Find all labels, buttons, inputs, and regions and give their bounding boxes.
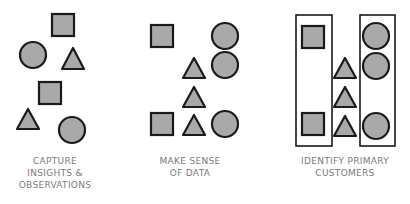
caption-line: MAKE SENSE <box>140 155 240 167</box>
square-shape <box>39 82 61 104</box>
circle-shape <box>212 52 238 78</box>
triangle-shape <box>334 87 356 107</box>
caption-identify-primary-customers: IDENTIFY PRIMARY CUSTOMERS <box>280 155 410 179</box>
circle-shape <box>212 111 238 137</box>
square-shape <box>302 26 324 48</box>
triangle-shape <box>334 116 356 136</box>
circle-shape <box>212 23 238 49</box>
triangle-shape <box>17 109 39 129</box>
caption-line: CUSTOMERS <box>280 167 410 179</box>
circle-shape <box>363 113 389 139</box>
caption-line: OF DATA <box>140 167 240 179</box>
square-shape <box>151 25 173 47</box>
triangle-shape <box>183 115 205 135</box>
caption-line: INSIGHTS & <box>5 167 105 179</box>
caption-line: IDENTIFY PRIMARY <box>280 155 410 167</box>
square-shape <box>52 14 74 36</box>
square-shape <box>151 113 173 135</box>
panel-identify-primary-customers <box>296 15 395 146</box>
caption-capture-insights: CAPTURE INSIGHTS & OBSERVATIONS <box>5 155 105 191</box>
caption-line: CAPTURE <box>5 155 105 167</box>
triangle-shape <box>334 58 356 78</box>
triangle-shape <box>62 48 84 69</box>
caption-line: OBSERVATIONS <box>5 179 105 191</box>
circle-shape <box>20 42 46 68</box>
panel-make-sense-of-data <box>151 23 238 137</box>
panel-capture-insights <box>17 14 85 143</box>
circle-shape <box>59 117 85 143</box>
triangle-shape <box>183 58 205 78</box>
circle-shape <box>363 53 389 79</box>
square-shape <box>302 113 324 135</box>
triangle-shape <box>183 87 205 107</box>
circle-shape <box>363 23 389 49</box>
caption-make-sense-of-data: MAKE SENSE OF DATA <box>140 155 240 179</box>
